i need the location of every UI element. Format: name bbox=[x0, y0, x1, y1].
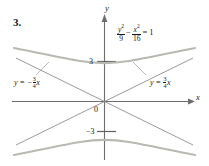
y-axis-label: y bbox=[105, 3, 109, 13]
equation-equals: = 1 bbox=[142, 27, 153, 37]
asymptote-right-prefix: y = bbox=[150, 78, 163, 87]
asymptote-left-label: y = − 3 4 x bbox=[14, 76, 40, 90]
tick-label-origin: 0 bbox=[94, 105, 98, 114]
y-axis bbox=[102, 14, 108, 160]
equation-term-1: y2 9 bbox=[117, 24, 125, 43]
tick-label-positive-vertex: 3 bbox=[89, 57, 93, 66]
asymptote-right-label: y = 3 4 x bbox=[150, 76, 171, 90]
asymptote-left-prefix: y = − bbox=[14, 78, 32, 87]
x-axis-label: x bbox=[196, 92, 200, 102]
tick-label-negative-vertex: −3 bbox=[86, 127, 95, 136]
equation-operator: − bbox=[126, 27, 131, 37]
hyperbola-equation: y2 9 − x2 16 = 1 bbox=[116, 24, 154, 43]
tick-marks bbox=[97, 62, 116, 132]
equation-term-2: x2 16 bbox=[132, 24, 142, 43]
